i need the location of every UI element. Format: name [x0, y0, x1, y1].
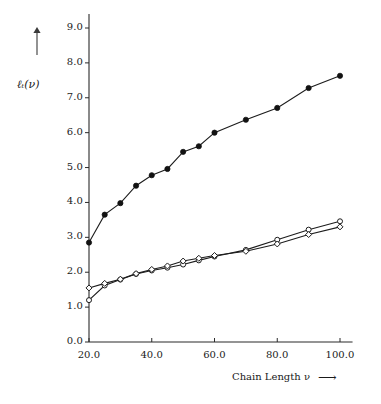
y-tick-label: 7.0	[41, 91, 83, 102]
x-tick-label: 60.0	[190, 349, 240, 360]
x-tick-label: 40.0	[127, 349, 177, 360]
x-tick-label: 20.0	[64, 349, 114, 360]
x-tick-label: 100.0	[315, 349, 365, 360]
series-path	[89, 221, 340, 300]
data-point-marker	[337, 73, 342, 78]
x-axis-label: Chain Length ν	[232, 371, 310, 382]
data-point-marker	[196, 144, 201, 149]
series-filled-circles	[86, 73, 342, 245]
data-point-marker	[306, 85, 311, 90]
data-point-marker	[86, 285, 92, 291]
y-tick-label: 5.0	[41, 161, 83, 172]
data-point-marker	[118, 201, 123, 206]
data-point-marker	[275, 105, 280, 110]
data-point-marker	[306, 232, 312, 238]
y-tick-label: 9.0	[41, 21, 83, 32]
series-open-diamonds	[86, 224, 343, 291]
series-open-circles	[87, 219, 343, 303]
data-point-marker	[86, 240, 91, 245]
data-point-marker	[243, 117, 248, 122]
y-tick-label: 3.0	[41, 230, 83, 241]
series-path	[89, 76, 340, 243]
data-point-marker	[212, 130, 217, 135]
data-point-marker	[181, 149, 186, 154]
data-point-marker	[87, 298, 92, 303]
data-point-marker	[337, 224, 343, 230]
data-point-marker	[133, 183, 138, 188]
x-axis-arrow-icon: ⟶	[318, 370, 337, 385]
y-tick-label: 2.0	[41, 265, 83, 276]
chart-figure: ℓₜ(ν) 0.01.02.03.04.05.06.07.08.09.0 20.…	[0, 0, 381, 404]
y-tick-label: 1.0	[41, 300, 83, 311]
y-tick-label: 4.0	[41, 195, 83, 206]
data-point-marker	[102, 212, 107, 217]
data-point-marker	[149, 173, 154, 178]
y-tick-label: 0.0	[41, 335, 83, 346]
y-axis-label: ℓₜ(ν)	[17, 78, 40, 91]
x-tick-label: 80.0	[252, 349, 302, 360]
data-point-marker	[165, 166, 170, 171]
y-tick-label: 6.0	[41, 126, 83, 137]
y-tick-label: 8.0	[41, 56, 83, 67]
data-point-marker	[338, 219, 343, 224]
